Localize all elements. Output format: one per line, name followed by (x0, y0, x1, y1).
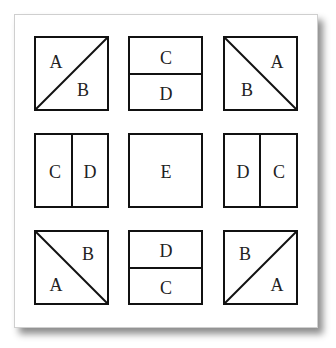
tile-label: C (273, 163, 285, 181)
tile-bottom-left: B A (34, 230, 109, 305)
tile-label: B (82, 245, 94, 263)
tile-label: A (271, 276, 284, 294)
tile-middle-right: D C (223, 133, 298, 208)
tile-label: C (160, 279, 172, 297)
vertical-divider-icon (223, 133, 298, 208)
diagonal-divider-icon (223, 36, 298, 111)
tile-label: B (241, 81, 253, 99)
tile-label: A (50, 276, 63, 294)
diagonal-divider-icon (34, 36, 109, 111)
tile-top-center: C D (128, 36, 203, 111)
tile-top-left: A B (34, 36, 109, 111)
tile-bottom-center: D C (128, 230, 203, 305)
tile-label: D (84, 163, 97, 181)
tile-center: E (128, 133, 203, 208)
tile-label: D (160, 85, 173, 103)
tile-label: A (271, 53, 284, 71)
tile-label: B (239, 245, 251, 263)
vertical-divider-icon (34, 133, 109, 208)
tile-label: D (160, 242, 173, 260)
tile-middle-left: C D (34, 133, 109, 208)
tile-label: C (49, 163, 61, 181)
tile-label: B (77, 81, 89, 99)
tile-bottom-right: B A (223, 230, 298, 305)
tile-label: C (160, 49, 172, 67)
tile-label: D (237, 163, 250, 181)
diagonal-divider-icon (223, 230, 298, 305)
diagonal-divider-icon (34, 230, 109, 305)
tile-top-right: A B (223, 36, 298, 111)
tile-label: A (50, 53, 63, 71)
tile-label: E (161, 163, 172, 181)
